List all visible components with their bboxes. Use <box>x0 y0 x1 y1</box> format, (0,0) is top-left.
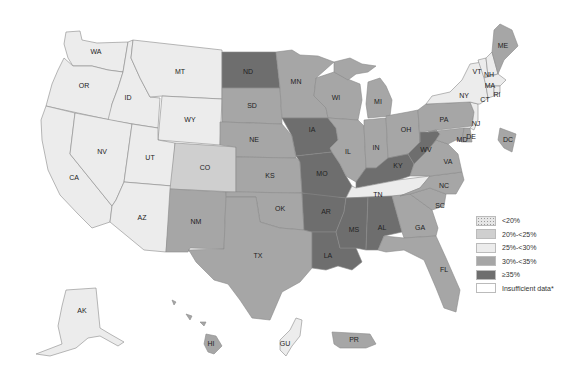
legend-label: 25%-<30% <box>502 244 536 251</box>
state-label-dc: DC <box>503 136 513 143</box>
state-label-pa: PA <box>440 116 449 123</box>
us-choropleth-map: WAORCAIDNVMTWYUTAZCONMNDSDNEKSOKTXMNIAMO… <box>0 0 576 375</box>
state-label-nd: ND <box>243 68 253 75</box>
state-label-id: ID <box>125 94 132 101</box>
state-label-la: LA <box>324 252 333 259</box>
state-label-nv: NV <box>97 148 107 155</box>
legend-label: 30%-<35% <box>502 258 536 265</box>
state-label-tn: TN <box>373 191 382 198</box>
state-label-ga: GA <box>415 224 425 231</box>
state-label-ca: CA <box>69 174 79 181</box>
state-hi[interactable] <box>172 300 222 354</box>
state-ak[interactable] <box>36 288 124 356</box>
state-label-sc: SC <box>435 202 445 209</box>
state-label-ar: AR <box>321 208 331 215</box>
legend-item-20-25: 20%-<25% <box>476 228 554 242</box>
legend-label: ≥35% <box>502 271 520 278</box>
state-label-ms: MS <box>349 226 360 233</box>
state-label-mn: MN <box>291 78 302 85</box>
state-label-nj: NJ <box>472 120 481 127</box>
state-label-co: CO <box>200 164 211 171</box>
state-label-oh: OH <box>401 126 412 133</box>
state-label-or: OR <box>79 82 90 89</box>
state-label-ok: OK <box>275 205 285 212</box>
legend-item-lt20: <20% <box>476 214 554 228</box>
legend: <20% 20%-<25% 25%-<30% 30%-<35% ≥35% Ins… <box>476 214 554 295</box>
state-label-me: ME <box>498 42 509 49</box>
state-label-al: AL <box>378 224 387 231</box>
state-label-mo: MO <box>316 170 328 177</box>
state-label-mi: MI <box>374 98 382 105</box>
state-label-nc: NC <box>439 182 449 189</box>
state-label-mt: MT <box>175 68 186 75</box>
state-label-va: VA <box>444 158 453 165</box>
state-label-fl: FL <box>440 266 448 273</box>
legend-label: 20%-<25% <box>502 231 536 238</box>
state-label-pr: PR <box>349 336 359 343</box>
state-label-hi: HI <box>208 340 215 347</box>
legend-item-25-30: 25%-<30% <box>476 241 554 255</box>
state-label-nh: NH <box>484 71 494 78</box>
state-label-ny: NY <box>459 92 469 99</box>
legend-label: <20% <box>502 217 520 224</box>
state-label-ut: UT <box>145 154 155 161</box>
state-label-tx: TX <box>254 252 263 259</box>
legend-swatch-gte35 <box>476 270 496 280</box>
state-label-ct: CT <box>480 96 490 103</box>
state-label-vt: VT <box>473 68 483 75</box>
legend-label: Insufficient data* <box>502 285 554 292</box>
legend-swatch-20-25 <box>476 229 496 239</box>
state-label-ia: IA <box>309 126 316 133</box>
state-label-ri: RI <box>494 91 501 98</box>
legend-item-30-35: 30%-<35% <box>476 255 554 269</box>
state-label-wi: WI <box>332 94 341 101</box>
legend-swatch-25-30 <box>476 243 496 253</box>
state-me[interactable] <box>492 24 518 74</box>
state-label-ma: MA <box>485 82 496 89</box>
state-label-ne: NE <box>249 136 259 143</box>
state-label-wa: WA <box>90 48 101 55</box>
state-fl[interactable] <box>378 236 460 312</box>
state-label-in: IN <box>373 144 380 151</box>
state-label-wv: WV <box>420 146 432 153</box>
state-label-az: AZ <box>138 214 148 221</box>
state-label-nm: NM <box>191 218 202 225</box>
state-label-sd: SD <box>247 102 257 109</box>
state-label-ak: AK <box>77 307 87 314</box>
legend-swatch-30-35 <box>476 256 496 266</box>
state-label-gu: GU <box>280 340 291 347</box>
legend-swatch-insufficient <box>476 283 496 293</box>
legend-item-gte35: ≥35% <box>476 268 554 282</box>
state-label-wy: WY <box>184 116 196 123</box>
legend-item-insufficient: Insufficient data* <box>476 282 554 296</box>
state-gu[interactable] <box>280 318 302 356</box>
state-label-de: DE <box>466 133 476 140</box>
state-label-il: IL <box>345 148 351 155</box>
state-label-ks: KS <box>265 172 275 179</box>
state-label-ky: KY <box>393 162 403 169</box>
legend-swatch-lt20 <box>476 216 496 226</box>
